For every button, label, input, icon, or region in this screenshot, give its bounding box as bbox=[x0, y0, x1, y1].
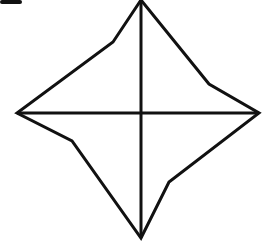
cropped-glyph-fragment bbox=[0, 0, 22, 4]
star-outline bbox=[17, 0, 259, 238]
star-diagram bbox=[0, 0, 262, 242]
